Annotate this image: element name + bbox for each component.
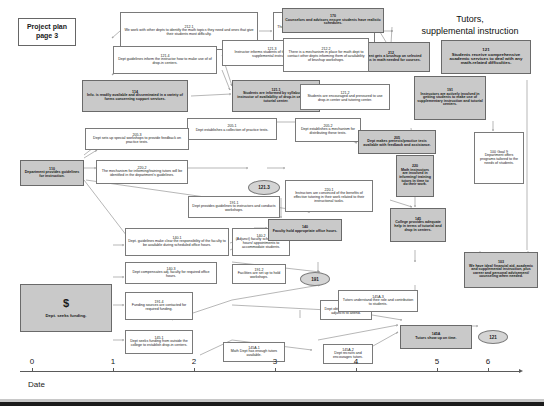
node-170-real[interactable]: 170 Counselors and advisors ensure stude… [282,8,384,33]
ellipse-label: 191 [311,277,319,282]
node-205[interactable]: 205 Dept makes pretests/practice tests a… [358,130,436,154]
axis-tick-label: 3 [267,357,283,366]
node-text: Counselors and advisors ensure students … [285,19,381,26]
ellipse-label: 121 [489,335,497,340]
axis-arrow-icon [519,369,523,373]
node-text: Dept. guidelines make clear the responsi… [128,240,226,247]
node-121-2[interactable]: 121.2 Students are encouraged and pressu… [300,84,390,110]
node-103[interactable]: 103 We have ideal financial aid, academi… [464,252,538,288]
node-121[interactable]: 121 Students receive comprehensive acade… [441,40,531,74]
node-text: Dept establishes a collection of practic… [196,129,269,133]
node-text: Department provides guidelines for instr… [23,171,81,178]
axis-tick [32,368,33,371]
node-text: Dept seeks funding from outside the coll… [128,340,190,347]
axis-label-date: Date [28,380,45,389]
node-text: Math instructors are involved in informi… [399,169,431,187]
node-text: Tutors show up on time. [415,337,456,341]
ellipse-121-bottom[interactable]: 121 [478,330,508,344]
node-220-1[interactable]: 220.1 Instructors are convinced of the b… [285,180,373,212]
node-220-2[interactable]: 220.2 The mechanism for informing/traini… [96,160,188,184]
node-text: Funding sources are contacted for requir… [128,304,190,311]
node-212-2-real[interactable]: 212.2 There is a mechanism in place for … [283,38,369,72]
node-text: There is a mechanism in place for math d… [286,51,366,62]
title-line-1: Project plan [27,23,67,30]
node-text: We work with other depts to identify the… [123,29,255,36]
node-text: Dept compensates adj. faculty for requir… [128,271,214,278]
node-140[interactable]: 140 Faculty hold appropriate office hour… [268,219,342,241]
banner-line-1: Tutors, [400,14,540,26]
axis-tick [275,368,276,371]
node-text: Dept establishes a mechanism for distrib… [298,128,358,135]
ellipse-121-3[interactable]: 121.3 [248,180,280,195]
node-text: Dept provides guidelines to instructors … [191,205,277,212]
node-114[interactable]: 114 Info. is readily available and disse… [82,80,188,112]
axis-tick [437,368,438,371]
node-191[interactable]: 191 Instructors are actively involved in… [414,76,486,120]
ellipse-191[interactable]: 191 [300,272,330,286]
node-text: College provides adequate help in terms … [393,221,443,232]
dollar-icon: $ [63,298,69,309]
node-text: Faculty hold appropriate office hours. [273,230,338,234]
axis-tick-label: 0 [24,357,40,366]
title-line-2: page 3 [36,32,58,39]
title-card: Project plan page 3 [18,18,76,46]
node-text: Dept guidelines inform the instructor ho… [116,58,214,65]
axis-tick-label: 1 [105,357,121,366]
node-text: Tutors understand their role and contrib… [341,299,415,306]
node-145A[interactable]: 145A Tutors show up on time. [400,325,472,349]
node-100-goal[interactable]: 100 Goal 9 Department offers programs ta… [474,132,524,184]
node-text: We have ideal financial aid, academic an… [467,265,535,280]
timeline-axis [20,371,520,372]
node-text: Students are encouraged and pressured to… [303,95,387,102]
ellipse-label: 121.3 [258,185,270,190]
node-140-3[interactable]: 140.3 Dept compensates adj. faculty for … [125,262,217,284]
axis-tick [356,368,357,371]
node-191-1[interactable]: 191.1 Dept provides guidelines to instru… [188,196,280,218]
node-121-4[interactable]: 121.4 Dept guidelines inform the instruc… [113,46,217,74]
node-text: The mechanism for informing/training tut… [99,170,185,177]
banner-line-2: supplemental instruction [400,26,540,38]
node-220[interactable]: 220 Math instructors are involved in inf… [396,155,434,197]
node-text: Department offers programs tailored to t… [477,154,521,165]
node-text: Instructors are actively involved in get… [417,93,483,108]
node-140-1[interactable]: 140.1 Dept. guidelines make clear the re… [125,228,229,256]
node-text: Dept makes pretests/practice tests avail… [361,140,433,147]
diagram-canvas: Project plan page 3 Tutors, supplemental… [0,0,544,411]
node-110[interactable]: 110 Department provides guidelines for i… [20,160,84,186]
node-145-1[interactable]: 145.1 Dept seeks funding from outside th… [125,330,193,354]
axis-tick-label: 2 [186,357,202,366]
node-191-4[interactable]: 191.4 Funding sources are contacted for … [125,292,193,320]
node-205-1[interactable]: 205.1 Dept establishes a collection of p… [187,118,277,140]
axis-tick-label: 4 [348,357,364,366]
node-text: Instructors are convinced of the benefit… [288,192,370,203]
node-191-2[interactable]: 191.2 Facilities are set up to hold work… [232,264,286,284]
axis-tick [194,368,195,371]
axis-tick [113,368,114,371]
node-text: Students receive comprehensive academic … [444,53,528,66]
node-text: Dept sets up special workshops to provid… [88,137,186,144]
node-text: Info. is readily available and dissemina… [85,94,185,101]
axis-tick-label: 6 [480,357,496,366]
node-205-3[interactable]: 205.3 Dept sets up special workshops to … [85,128,189,150]
node-145A-3[interactable]: 145A.3 Tutors understand their role and … [338,290,418,312]
axis-tick-label: 5 [429,357,445,366]
node-dept-seeks-funding[interactable]: $ Dept. seeks funding. [20,284,112,332]
node-text: Dept. seeks funding. [46,313,87,318]
axis-tick [488,368,489,371]
page-title: Tutors, supplemental instruction [400,14,540,37]
node-text: Facilities are set up to hold workshops. [235,272,283,279]
node-145[interactable]: 145 College provides adequate help in te… [390,208,446,242]
node-205-2[interactable]: 205.2 Dept establishes a mechanism for d… [295,118,361,142]
footer-bar-dark [0,402,544,406]
